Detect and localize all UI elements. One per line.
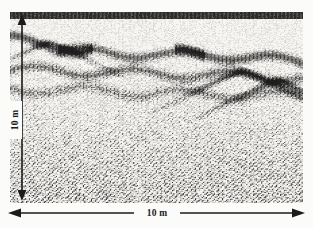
wiggle-trace-image xyxy=(10,12,303,203)
distance-scale-label: 10 m xyxy=(134,206,180,220)
depth-scale-label-text: 10 m xyxy=(10,110,20,131)
radargram-panel xyxy=(10,12,303,203)
depth-scale-label: 10 m xyxy=(8,101,22,139)
gpr-profile-figure: 10 m 10 m xyxy=(0,0,313,228)
